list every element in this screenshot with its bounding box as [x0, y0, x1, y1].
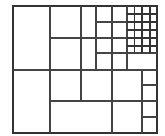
subdivision-diagram: [0, 0, 165, 136]
